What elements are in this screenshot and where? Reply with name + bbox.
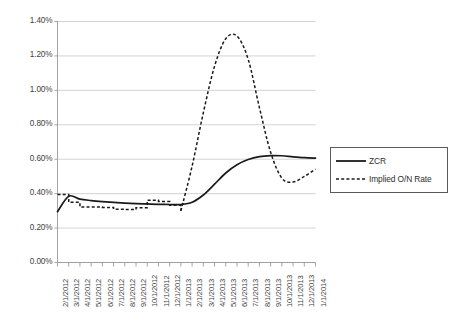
legend-swatch-dashed-line-icon bbox=[336, 174, 366, 184]
x-axis-tick-label: 2/1/2013 bbox=[195, 279, 204, 307]
x-axis-tick-label: 11/1/2012 bbox=[162, 275, 171, 306]
chart-container: 0.00%0.20%0.40%0.60%0.80%1.00%1.20%1.40%… bbox=[0, 0, 453, 333]
y-axis-tick-label: 0.40% bbox=[30, 188, 53, 197]
x-axis-tick-label: 10/1/2013 bbox=[285, 275, 294, 307]
x-axis-tick-label: 1/1/2014 bbox=[319, 279, 328, 307]
chart-legend: ZCRImplied O/N Rate bbox=[330, 147, 448, 193]
x-axis-tick-label: 11/1/2013 bbox=[296, 275, 305, 306]
series-line-zcr bbox=[58, 156, 316, 212]
legend-item-label: ZCR bbox=[369, 156, 386, 166]
x-axis-tick-label: 5/1/2012 bbox=[94, 279, 103, 307]
y-axis-tick-label: 1.40% bbox=[30, 16, 53, 25]
y-axis-tick-label: 0.60% bbox=[30, 154, 53, 163]
legend-item: ZCR bbox=[331, 152, 447, 170]
x-axis-tick-label: 9/1/2013 bbox=[274, 279, 283, 307]
y-axis-tick-label: 1.20% bbox=[30, 50, 53, 59]
x-axis-tick-label: 3/1/2012 bbox=[72, 279, 81, 307]
x-axis-tick-label: 1/1/2013 bbox=[184, 279, 193, 307]
x-axis-tick-label: 4/1/2013 bbox=[218, 279, 227, 307]
legend-swatch-solid-line-icon bbox=[336, 156, 366, 166]
x-axis-tick-label: 8/1/2012 bbox=[128, 279, 137, 307]
x-axis-tick-label: 8/1/2013 bbox=[263, 279, 272, 307]
x-axis-tick-label: 4/1/2012 bbox=[83, 279, 92, 307]
x-axis-tick-label: 9/1/2012 bbox=[139, 279, 148, 307]
y-axis-tick-label: 1.00% bbox=[30, 85, 53, 94]
y-axis-tick-label: 0.80% bbox=[30, 119, 53, 128]
x-axis-tick-label: 12/1/2012 bbox=[173, 275, 182, 307]
x-axis-tick-label: 6/1/2012 bbox=[106, 279, 115, 307]
x-axis-tick-label: 7/1/2012 bbox=[117, 279, 126, 307]
y-axis-tick-label: 0.00% bbox=[30, 257, 53, 266]
x-axis-tick-label: 12/1/2013 bbox=[307, 275, 316, 307]
x-axis-tick-label: 10/1/2012 bbox=[150, 275, 159, 307]
legend-item: Implied O/N Rate bbox=[331, 170, 447, 188]
x-axis-tick-label: 3/1/2013 bbox=[207, 279, 216, 307]
x-axis-tick-label: 7/1/2013 bbox=[251, 279, 260, 307]
y-axis-tick-label: 0.20% bbox=[30, 223, 53, 232]
x-axis-tick-label: 6/1/2013 bbox=[240, 279, 249, 307]
series-line-implied-on-rate bbox=[181, 34, 316, 211]
x-axis-tick-label: 2/1/2012 bbox=[61, 279, 70, 307]
x-axis-tick-label: 5/1/2013 bbox=[229, 279, 238, 307]
legend-item-label: Implied O/N Rate bbox=[369, 174, 432, 184]
